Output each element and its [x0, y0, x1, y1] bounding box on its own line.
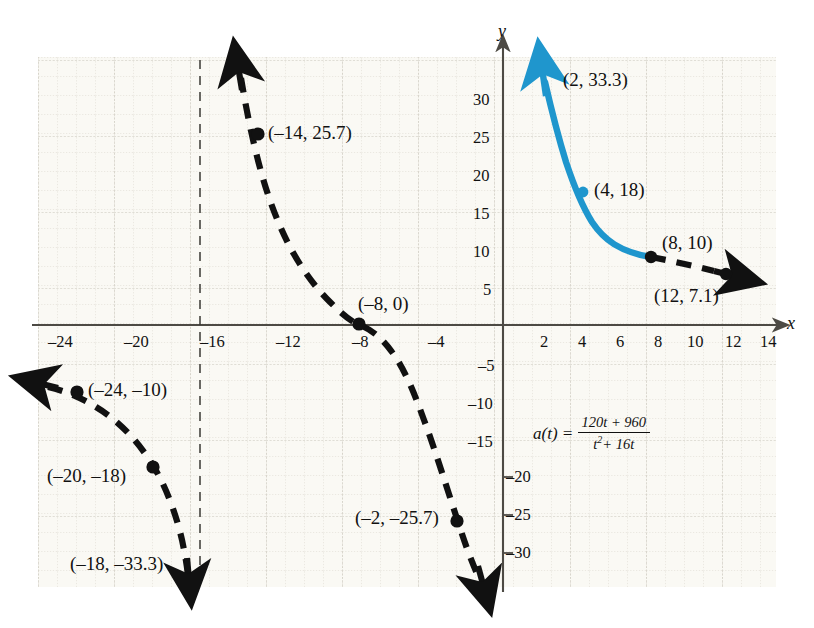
marker-4-18	[578, 187, 589, 198]
equation-fraction: 120t + 960 t2+ 16t	[578, 414, 651, 453]
x-tick-10: 10	[687, 334, 704, 351]
annotation-point-4-18: (4, 18)	[594, 180, 645, 199]
marker-neg8-0	[352, 317, 365, 330]
right-branch-dashed	[651, 257, 714, 271]
y-axis-label: y	[498, 22, 506, 40]
x-tick-2: 2	[540, 334, 548, 351]
x-tick-neg4: –4	[428, 334, 445, 351]
equation-denominator-rest: + 16t	[602, 436, 634, 452]
middle-branch-down-arrow	[478, 566, 484, 588]
curves-layer	[0, 0, 814, 628]
x-tick-neg24: –24	[48, 334, 73, 351]
annotation-point-2-33-3: (2, 33.3)	[563, 70, 628, 89]
y-tick-neg5: –5	[478, 358, 495, 375]
marker-neg24-neg10	[70, 385, 83, 398]
y-tick-25: 25	[473, 130, 490, 147]
equation-annotation: a(t) = 120t + 960 t2+ 16t	[533, 415, 650, 454]
x-tick-14: 14	[760, 334, 777, 351]
graph-figure: y x –24 –20 –16 –12 –8 –4 2 4 6 8 10 12 …	[0, 0, 814, 628]
x-tick-neg12: –12	[276, 334, 301, 351]
x-tick-8: 8	[654, 334, 662, 351]
marker-neg2-neg25-7	[450, 514, 463, 527]
annotation-point-neg24: (–24, –10)	[88, 380, 167, 399]
x-axis-label: x	[787, 314, 795, 332]
annotation-point-neg18: (–18, –33.3)	[70, 554, 163, 573]
equation-numerator: 120t + 960	[578, 414, 651, 432]
x-tick-6: 6	[616, 334, 624, 351]
middle-branch-up-arrow	[238, 66, 242, 90]
x-tick-neg20: –20	[124, 334, 149, 351]
annotation-point-neg2: (–2, –25.7)	[355, 508, 439, 527]
y-tick-neg25: –25	[506, 507, 531, 524]
right-branch-up-arrow	[542, 68, 546, 96]
y-tick-5: 5	[483, 282, 491, 299]
y-tick-neg10: –10	[468, 396, 493, 413]
y-tick-neg20: –20	[506, 469, 531, 486]
y-tick-10: 10	[473, 244, 490, 261]
x-tick-12: 12	[725, 334, 742, 351]
x-tick-neg16: –16	[200, 334, 225, 351]
annotation-point-12-7-1: (12, 7.1)	[654, 286, 719, 305]
annotation-point-8-10: (8, 10)	[662, 233, 713, 252]
y-tick-30: 30	[473, 92, 490, 109]
marker-12-7-1	[720, 268, 732, 280]
y-tick-neg15: –15	[468, 434, 493, 451]
annotation-point-neg8: (–8, 0)	[358, 294, 409, 313]
equation-denominator: t2+ 16t	[578, 432, 651, 453]
x-tick-neg8: –8	[352, 334, 369, 351]
marker-8-10	[645, 251, 657, 263]
y-tick-15: 15	[473, 206, 490, 223]
equation-lhs: a(t) =	[533, 424, 573, 444]
annotation-point-neg20: (–20, –18)	[47, 466, 126, 485]
y-tick-neg30: –30	[506, 545, 531, 562]
marker-neg20-neg18	[146, 460, 159, 473]
marker-neg14-25-7	[251, 127, 264, 140]
x-tick-4: 4	[578, 334, 586, 351]
annotation-point-neg14: (–14, 25.7)	[268, 123, 352, 142]
right-branch-highlight	[545, 82, 651, 257]
left-branch-down-arrow	[187, 558, 189, 580]
y-tick-20: 20	[473, 168, 490, 185]
left-branch-left-arrow	[38, 383, 58, 388]
